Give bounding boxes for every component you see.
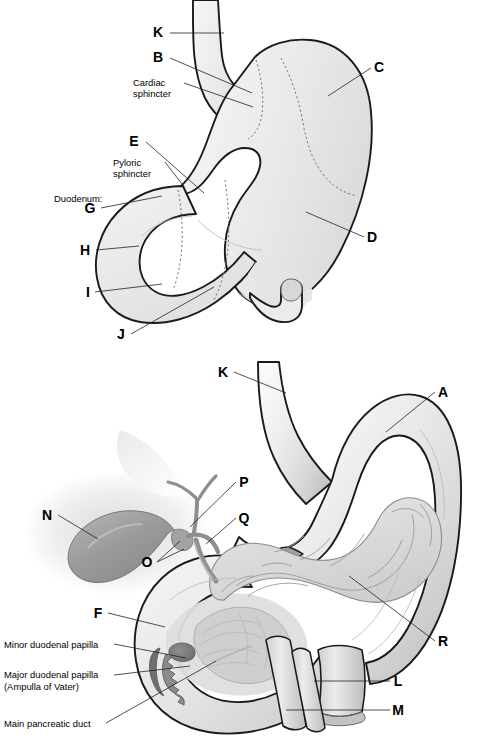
label-Q-lower[interactable]: Q (239, 510, 250, 526)
label-K-lower[interactable]: K (218, 364, 228, 380)
label-minor-duodenal-papilla: Minor duodenal papilla (4, 639, 99, 650)
label-A-lower[interactable]: A (438, 384, 448, 400)
jejunum-cut-ellipse-upper (281, 279, 302, 301)
label-I-upper[interactable]: I (86, 284, 90, 300)
hepatic-duct-right-lower (198, 476, 216, 500)
label-cardiac-sphincter-line2: sphincter (133, 88, 171, 99)
label-pyloric-sphincter-line2: sphincter (113, 168, 151, 179)
label-D-upper[interactable]: D (367, 229, 377, 245)
label-E-upper[interactable]: E (129, 133, 138, 149)
label-F-lower[interactable]: F (94, 605, 103, 621)
label-O-lower[interactable]: O (142, 554, 153, 570)
label-main-pancreatic-duct: Main pancreatic duct (4, 718, 91, 729)
anatomy-figure: K B Cardiac sphincter C E Pyloric sphinc… (0, 0, 477, 749)
minor-duodenal-papilla-lower (169, 643, 195, 661)
label-major-duodenal-papilla-line2: (Ampulla of Vater) (4, 681, 79, 692)
label-cardiac-sphincter-line1: Cardiac (133, 77, 166, 88)
label-major-duodenal-papilla-line1: Major duodenal papilla (4, 669, 99, 680)
label-R-lower[interactable]: R (438, 633, 448, 649)
label-pyloric-sphincter-line1: Pyloric (113, 157, 141, 168)
label-K-upper[interactable]: K (153, 24, 163, 40)
label-C-upper[interactable]: C (374, 59, 384, 75)
label-P-lower[interactable]: P (239, 474, 248, 490)
label-N-lower[interactable]: N (42, 507, 52, 523)
label-H-upper[interactable]: H (80, 242, 90, 258)
label-M-lower[interactable]: M (392, 702, 404, 718)
label-J-upper[interactable]: J (117, 326, 125, 342)
label-G-upper[interactable]: G (85, 200, 96, 216)
esophagus-shape-lower (258, 362, 332, 504)
leader-pyloric-upper (165, 162, 182, 184)
label-B-upper[interactable]: B (153, 49, 163, 65)
label-L-lower[interactable]: L (394, 673, 403, 689)
